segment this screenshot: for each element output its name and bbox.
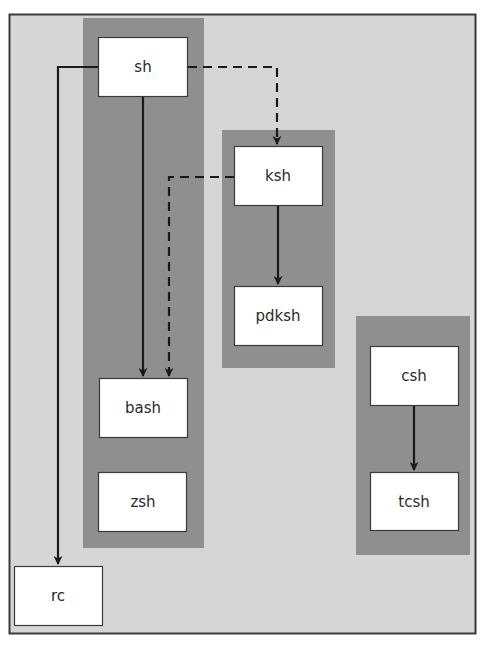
shell-family-diagram: sh ksh pdksh bash zsh csh tcsh rc [0, 0, 488, 647]
node-label: csh [401, 367, 427, 385]
node-label: bash [125, 399, 161, 417]
node-label: rc [51, 587, 65, 605]
node-label: tcsh [398, 493, 429, 511]
node-label: ksh [265, 167, 291, 185]
node-rc[interactable]: rc [15, 567, 103, 626]
node-tcsh[interactable]: tcsh [371, 473, 459, 531]
node-sh[interactable]: sh [99, 38, 188, 97]
node-zsh[interactable]: zsh [99, 473, 187, 532]
node-ksh[interactable]: ksh [235, 147, 323, 206]
node-csh[interactable]: csh [371, 347, 459, 406]
node-pdksh[interactable]: pdksh [235, 287, 323, 346]
node-label: pdksh [255, 307, 300, 325]
node-label: zsh [130, 493, 155, 511]
node-bash[interactable]: bash [100, 379, 188, 438]
node-label: sh [134, 58, 151, 76]
